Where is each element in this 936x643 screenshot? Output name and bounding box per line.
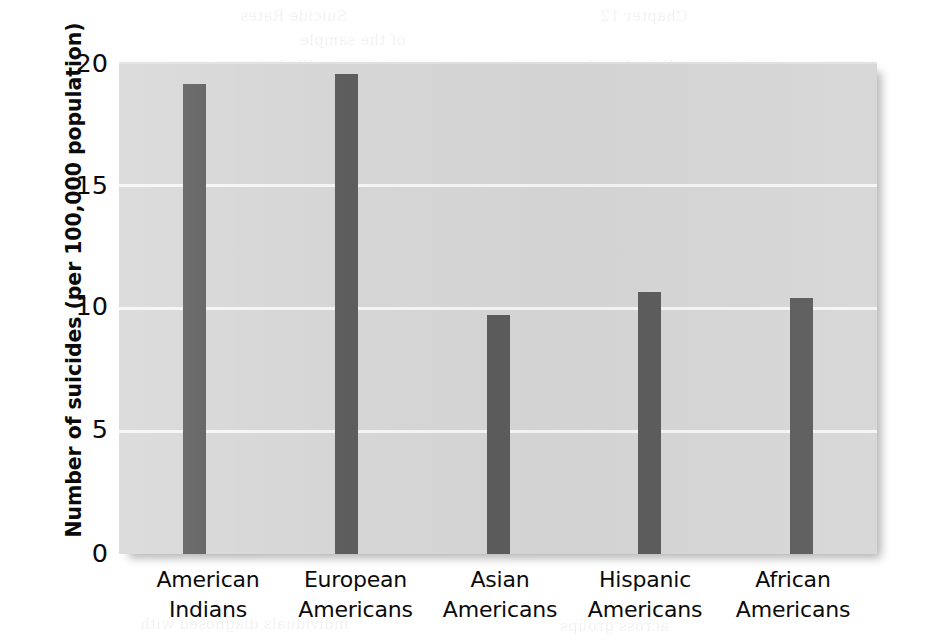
x-tick-label-european-americans: European Americans: [278, 565, 433, 625]
y-axis-title: Number of suicides (per 100,000 populati…: [62, 20, 86, 540]
y-tick-label-20: 20: [38, 48, 108, 78]
y-tick-label-0: 0: [38, 538, 108, 568]
x-tick-label-american-indians: American Indians: [133, 565, 283, 625]
gridline-10: [119, 307, 877, 310]
x-tick-label-hispanic-americans: Hispanic Americans: [570, 565, 720, 625]
x-tick-label-asian-americans: Asian Americans: [425, 565, 575, 625]
y-tick-label-15: 15: [38, 170, 108, 200]
y-tick-label-5: 5: [38, 414, 108, 444]
x-tick-label-african-americans: African Americans: [718, 565, 868, 625]
gridline-15: [119, 184, 877, 187]
gridline-20: [119, 61, 877, 64]
plot-area: [119, 62, 877, 554]
bar: [183, 84, 206, 554]
y-tick-label-10: 10: [38, 291, 108, 321]
bar-chart-figure: Number of suicides (per 100,000 populati…: [0, 0, 936, 643]
bar: [487, 315, 510, 554]
bar: [638, 292, 661, 554]
bar: [790, 298, 813, 554]
bar: [335, 74, 358, 554]
